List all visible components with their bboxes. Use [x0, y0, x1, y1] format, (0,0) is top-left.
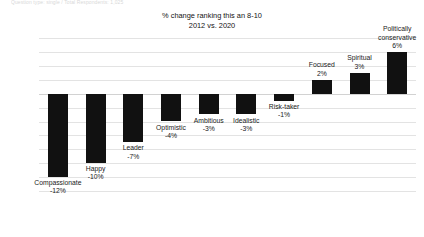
value-label: -3% [216, 125, 276, 133]
data-label: Risk-taker-1% [254, 103, 314, 119]
bar [274, 94, 294, 101]
value-label: -4% [141, 132, 201, 140]
gridline [39, 191, 416, 192]
category-label: Risk-taker [269, 103, 300, 110]
bar [312, 80, 332, 94]
source-question-note: Question type: single / Total Respondent… [11, 0, 311, 6]
category-label: Politically conservative [378, 25, 416, 40]
value-label: 6% [370, 42, 424, 50]
data-label: Spiritual3% [330, 54, 390, 70]
gridline [39, 163, 416, 164]
chart-screenshot: Question type: single / Total Respondent… [0, 0, 424, 237]
chart-title-line1: % change ranking this an 8-10 [162, 11, 262, 20]
value-label: 3% [330, 63, 390, 71]
bar [199, 94, 219, 115]
gridline [39, 38, 416, 39]
bar [350, 73, 370, 94]
data-label: Happy-10% [66, 165, 126, 181]
value-label: -1% [254, 111, 314, 119]
chart-title: % change ranking this an 8-10 2012 vs. 2… [0, 11, 424, 30]
chart-title-line2: 2012 vs. 2020 [0, 21, 424, 31]
category-label: Leader [123, 144, 144, 151]
data-label: Leader-7% [103, 144, 163, 160]
plot-area: 8%6%4%2%0%-2%-4%-6%-8%-10%-12%-14% Compa… [39, 38, 416, 191]
value-label: -10% [66, 173, 126, 181]
category-label: Spiritual [347, 54, 372, 61]
value-label: -7% [103, 153, 163, 161]
gridline [39, 52, 416, 53]
data-label: Politically conservative6% [370, 25, 424, 50]
bar [387, 52, 407, 94]
category-label: Happy [86, 165, 106, 172]
value-label: -12% [28, 187, 88, 195]
